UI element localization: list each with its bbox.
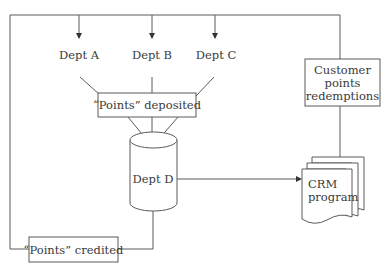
left-return-line	[10, 15, 29, 249]
dept-d-label: Dept D	[133, 172, 174, 186]
dept-a-label: Dept A	[59, 48, 100, 62]
crm-label-line2: program	[308, 190, 358, 204]
customer-label-line1: Customer	[314, 63, 371, 77]
loyalty-points-flow-diagram: Dept A Dept B Dept C “Points” deposited …	[0, 0, 388, 273]
crm-label-line1: CRM	[308, 177, 337, 191]
points-deposited-label: “Points” deposited	[93, 98, 202, 112]
dept-c-to-deposited	[196, 77, 214, 96]
points-credited-label: “Points” credited	[24, 243, 124, 257]
dept-c-label: Dept C	[196, 48, 237, 62]
customer-label-line2: points	[325, 76, 361, 90]
dept-a-to-deposited	[80, 77, 99, 94]
dept-b-label: Dept B	[132, 48, 172, 62]
customer-label-line3: redemptions	[306, 89, 379, 103]
